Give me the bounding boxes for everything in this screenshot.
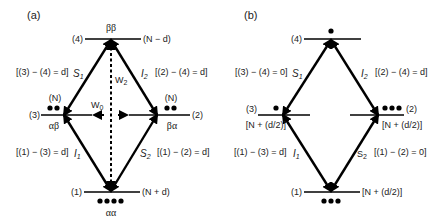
- level-2-index: (2): [406, 104, 417, 114]
- level-1-population: (N + d): [142, 187, 170, 197]
- level-3-population: [N + (d/2)]: [246, 120, 286, 130]
- transition-s1-arrow: [283, 40, 331, 115]
- level-4-population: (N − d): [143, 34, 171, 44]
- level-1-index: (1): [291, 187, 302, 197]
- i1-label: I1: [293, 148, 300, 160]
- level-1-index: (1): [71, 187, 82, 197]
- level-4-index: (4): [291, 34, 302, 44]
- level-1-dots: [321, 198, 340, 203]
- level-3-population: (N): [49, 93, 62, 103]
- transition-i1-arrow: [283, 115, 331, 191]
- w0-label: W0: [91, 100, 104, 111]
- s1-label: S1: [292, 68, 303, 80]
- transition-i2-arrow: [331, 40, 378, 115]
- s2-equation: [(1) − (2) = d]: [157, 147, 210, 157]
- i2-equation: [(2) − (4) = d]: [155, 67, 208, 77]
- level-1-dots: [97, 198, 123, 203]
- level-3-index: (3): [29, 110, 40, 120]
- i1-equation: [(1) − (3) = d]: [234, 147, 287, 157]
- level-2-dots: [164, 105, 176, 110]
- panel-a-label: (a): [27, 9, 40, 21]
- level-4-dots: [328, 28, 333, 33]
- level-2-population: (N): [165, 93, 178, 103]
- state-ab-label: αβ: [49, 120, 59, 131]
- i2-label: I2: [361, 68, 368, 80]
- s1-equation: [(3) − (4) = d]: [16, 67, 69, 77]
- level-3-dots: [273, 105, 278, 110]
- i1-label: I1: [74, 148, 81, 160]
- energy-level-diagram: (a) ββ (4) (N − d) (3) αβ (N) (2) βα (N)…: [0, 0, 438, 222]
- level-4-index: (4): [72, 34, 83, 44]
- s2-equation: [(1) − (2) = 0]: [374, 147, 427, 157]
- state-aa-label: αα: [106, 207, 117, 218]
- panel-b: (b) (4) (3) [N + (d/2)] (2) [N + (d/2)] …: [234, 9, 428, 204]
- s1-equation: [(3) − (4) = 0]: [235, 67, 288, 77]
- state-bb-label: ββ: [106, 22, 116, 33]
- level-1-population: [N + (d/2)]: [362, 187, 402, 197]
- i2-equation: [(2) − (4) = d]: [375, 67, 428, 77]
- s1-label: S1: [73, 68, 84, 80]
- s2-label: S2: [357, 149, 367, 160]
- transition-s2-arrow: [331, 115, 378, 191]
- s2-label: S2: [140, 148, 151, 160]
- w2-label: W2: [115, 75, 128, 86]
- level-2-dots: [382, 105, 401, 110]
- panel-a: (a) ββ (4) (N − d) (3) αβ (N) (2) βα (N)…: [16, 9, 210, 218]
- i1-equation: [(1) − (3) = d]: [16, 147, 69, 157]
- transition-s1-arrow: [64, 40, 111, 115]
- level-3-dots: [47, 105, 59, 110]
- level-2-index: (2): [192, 110, 203, 120]
- transition-i1-arrow: [64, 115, 111, 191]
- panel-b-label: (b): [244, 9, 257, 21]
- level-3-index: (3): [246, 104, 257, 114]
- i2-label: I2: [141, 68, 148, 80]
- level-2-population: [N + (d/2)]: [382, 120, 422, 130]
- state-ba-label: βα: [167, 120, 178, 131]
